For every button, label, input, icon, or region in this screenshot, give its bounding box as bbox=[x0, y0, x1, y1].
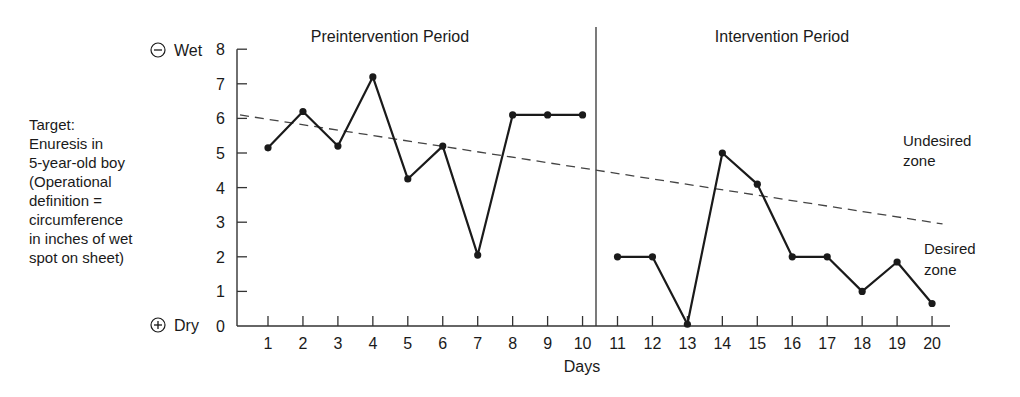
y-tick-label: 6 bbox=[216, 110, 225, 127]
y-tick-label: 8 bbox=[216, 41, 225, 58]
x-tick-label: 14 bbox=[713, 335, 731, 352]
y-tick-label: 0 bbox=[216, 318, 225, 335]
data-point bbox=[719, 149, 726, 156]
dry-label: Dry bbox=[174, 317, 199, 334]
x-tick-label: 15 bbox=[748, 335, 766, 352]
y-axis: 012345678 bbox=[216, 41, 247, 335]
x-tick-label: 17 bbox=[818, 335, 836, 352]
x-tick-label: 3 bbox=[333, 335, 342, 352]
dry-plus-icon bbox=[151, 318, 165, 332]
y-tick-label: 2 bbox=[216, 249, 225, 266]
x-tick-label: 9 bbox=[543, 335, 552, 352]
data-point bbox=[474, 251, 481, 258]
data-point bbox=[684, 321, 691, 328]
x-tick-label: 12 bbox=[644, 335, 662, 352]
x-tick-label: 2 bbox=[298, 335, 307, 352]
data-point bbox=[369, 73, 376, 80]
line-chart: Preintervention Period Intervention Peri… bbox=[0, 0, 1020, 397]
x-tick-label: 11 bbox=[609, 335, 626, 352]
data-point bbox=[859, 288, 866, 295]
data-point bbox=[614, 253, 621, 260]
series-line bbox=[618, 153, 933, 324]
desired-zone-label-line1: Desired bbox=[924, 240, 976, 257]
y-tick-label: 1 bbox=[216, 283, 225, 300]
x-tick-label: 16 bbox=[783, 335, 801, 352]
data-point bbox=[789, 253, 796, 260]
data-series bbox=[264, 73, 935, 328]
undesired-zone-label-line2: zone bbox=[903, 152, 936, 169]
x-tick-label: 18 bbox=[853, 335, 871, 352]
y-tick-label: 7 bbox=[216, 76, 225, 93]
y-tick-label: 4 bbox=[216, 180, 225, 197]
x-tick-label: 20 bbox=[923, 335, 941, 352]
data-point bbox=[264, 144, 271, 151]
x-tick-label: 6 bbox=[438, 335, 447, 352]
x-tick-label: 8 bbox=[508, 335, 517, 352]
data-point bbox=[334, 142, 341, 149]
x-tick-label: 13 bbox=[679, 335, 697, 352]
undesired-zone-label-line1: Undesired bbox=[903, 132, 971, 149]
x-tick-label: 4 bbox=[368, 335, 377, 352]
data-point bbox=[649, 253, 656, 260]
desired-zone-label-line2: zone bbox=[924, 261, 957, 278]
data-point bbox=[824, 253, 831, 260]
wet-minus-icon bbox=[151, 43, 165, 57]
data-point bbox=[509, 111, 516, 118]
x-tick-label: 19 bbox=[888, 335, 906, 352]
y-tick-label: 5 bbox=[216, 145, 225, 162]
data-point bbox=[404, 175, 411, 182]
data-point bbox=[928, 300, 935, 307]
wet-label: Wet bbox=[174, 42, 203, 59]
data-point bbox=[754, 181, 761, 188]
x-tick-label: 5 bbox=[403, 335, 412, 352]
x-tick-label: 7 bbox=[473, 335, 482, 352]
x-tick-label: 10 bbox=[574, 335, 592, 352]
data-point bbox=[439, 142, 446, 149]
phase-title-intervention: Intervention Period bbox=[715, 28, 849, 45]
series-line bbox=[268, 77, 583, 255]
x-axis: 1234567891011121314151617181920 bbox=[237, 316, 950, 352]
data-point bbox=[299, 108, 306, 115]
data-point bbox=[894, 258, 901, 265]
phase-title-preintervention: Preintervention Period bbox=[311, 28, 469, 45]
data-point bbox=[544, 111, 551, 118]
y-tick-label: 3 bbox=[216, 214, 225, 231]
x-axis-title: Days bbox=[564, 358, 600, 375]
x-tick-label: 1 bbox=[264, 335, 273, 352]
data-point bbox=[579, 111, 586, 118]
